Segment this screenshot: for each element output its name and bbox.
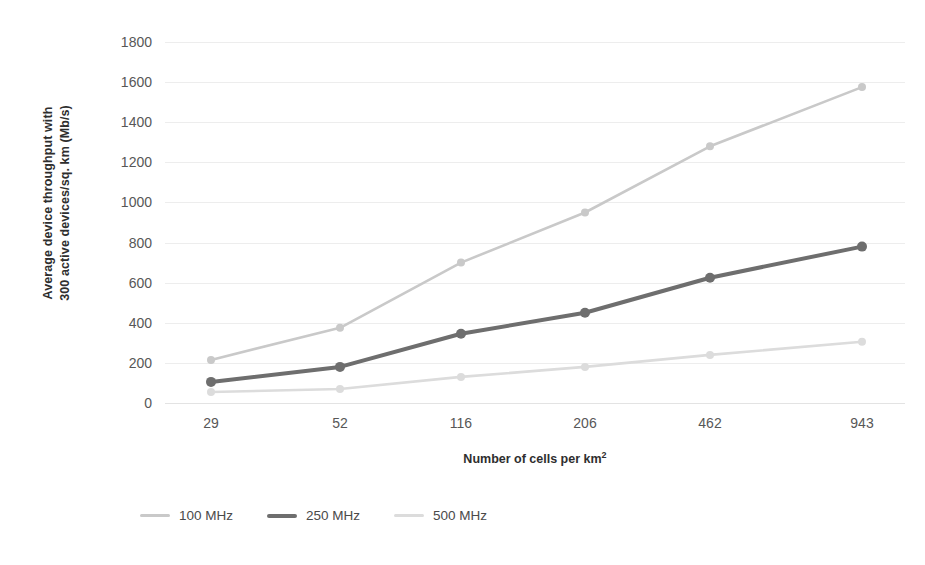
data-point <box>581 363 589 371</box>
plot-area <box>165 42 905 403</box>
legend-item[interactable]: 250 MHz <box>267 508 360 523</box>
y-axis-tick-label: 0 <box>96 395 152 411</box>
y-axis-tick-label: 1200 <box>96 154 152 170</box>
data-point <box>857 242 867 252</box>
y-axis-tick-label: 200 <box>96 355 152 371</box>
data-point <box>335 362 345 372</box>
series-line <box>211 342 862 392</box>
series-layer <box>165 42 905 403</box>
y-axis-tick-labels: 020040060080010001200140016001800 <box>96 42 152 403</box>
x-axis-title: Number of cells per km2 <box>165 450 905 466</box>
legend-swatch-icon <box>140 514 170 517</box>
x-axis-tick-label: 52 <box>332 415 348 431</box>
y-axis-title-line-1: Average device throughput with <box>40 38 57 368</box>
y-axis-tick-label: 800 <box>96 235 152 251</box>
legend-swatch-icon <box>394 514 424 517</box>
legend-item[interactable]: 500 MHz <box>394 508 487 523</box>
x-axis-tick-label: 943 <box>850 415 873 431</box>
y-axis-tick-label: 600 <box>96 275 152 291</box>
data-point <box>207 388 215 396</box>
y-axis-tick-label: 1600 <box>96 74 152 90</box>
data-point <box>206 377 216 387</box>
x-axis-title-text: Number of cells per km2 <box>463 452 606 466</box>
series-250-mhz <box>206 242 867 387</box>
legend-label: 250 MHz <box>306 508 360 523</box>
data-point <box>456 329 466 339</box>
y-axis-tick-label: 400 <box>96 315 152 331</box>
line-chart: Average device throughput with 300 activ… <box>0 0 925 565</box>
data-point <box>705 273 715 283</box>
chart-legend: 100 MHz250 MHz500 MHz <box>140 508 487 523</box>
data-point <box>706 142 714 150</box>
x-axis-tick-label: 206 <box>573 415 596 431</box>
legend-label: 100 MHz <box>179 508 233 523</box>
gridline <box>165 403 905 404</box>
legend-swatch-icon <box>267 514 297 518</box>
data-point <box>581 209 589 217</box>
data-point <box>457 373 465 381</box>
legend-label: 500 MHz <box>433 508 487 523</box>
series-line <box>211 247 862 382</box>
y-axis-tick-label: 1000 <box>96 194 152 210</box>
y-axis-title: Average device throughput with 300 activ… <box>40 38 74 368</box>
series-500-mhz <box>207 338 866 396</box>
y-axis-tick-label: 1800 <box>96 34 152 50</box>
data-point <box>336 385 344 393</box>
data-point <box>706 351 714 359</box>
data-point <box>580 308 590 318</box>
data-point <box>457 259 465 267</box>
x-axis-tick-labels: 2952116206462943 <box>165 415 905 437</box>
data-point <box>336 324 344 332</box>
x-axis-tick-label: 116 <box>450 415 472 431</box>
series-line <box>211 87 862 360</box>
data-point <box>858 83 866 91</box>
data-point <box>858 338 866 346</box>
y-axis-tick-label: 1400 <box>96 114 152 130</box>
superscript-two: 2 <box>602 450 607 460</box>
legend-item[interactable]: 100 MHz <box>140 508 233 523</box>
x-axis-tick-label: 462 <box>698 415 721 431</box>
x-axis-tick-label: 29 <box>203 415 219 431</box>
data-point <box>207 356 215 364</box>
y-axis-title-line-2: 300 active devices/sq. km (Mb/s) <box>57 38 74 368</box>
